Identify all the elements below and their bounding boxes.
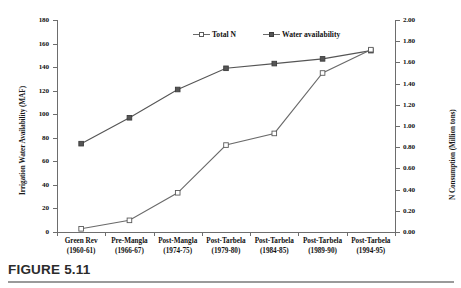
data-point-marker — [175, 190, 180, 195]
data-point-marker — [272, 61, 277, 66]
caption-divider — [8, 281, 454, 283]
figure-caption: FIGURE 5.11 — [8, 262, 90, 277]
data-point-marker — [320, 57, 325, 62]
data-point-marker — [224, 143, 229, 148]
data-point-marker — [127, 218, 132, 223]
data-point-marker — [175, 87, 180, 92]
data-point-marker — [369, 47, 374, 52]
figure-container: Total N Water availability 0204060801001… — [0, 0, 461, 288]
chart-series-layer — [0, 0, 461, 288]
series-line-total-n — [81, 50, 371, 229]
data-point-marker — [127, 115, 132, 120]
data-point-marker — [79, 141, 84, 146]
data-point-marker — [224, 66, 229, 71]
data-point-marker — [320, 71, 325, 76]
series-line-water-availability — [81, 51, 371, 144]
data-point-marker — [79, 227, 84, 232]
data-point-marker — [272, 131, 277, 136]
